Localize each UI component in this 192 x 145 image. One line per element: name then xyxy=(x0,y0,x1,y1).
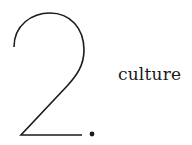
numeral-two-graphic xyxy=(0,0,100,145)
numeral-two-stroke xyxy=(14,13,84,135)
numeral-period-dot xyxy=(90,132,95,137)
section-label: culture xyxy=(118,63,181,85)
